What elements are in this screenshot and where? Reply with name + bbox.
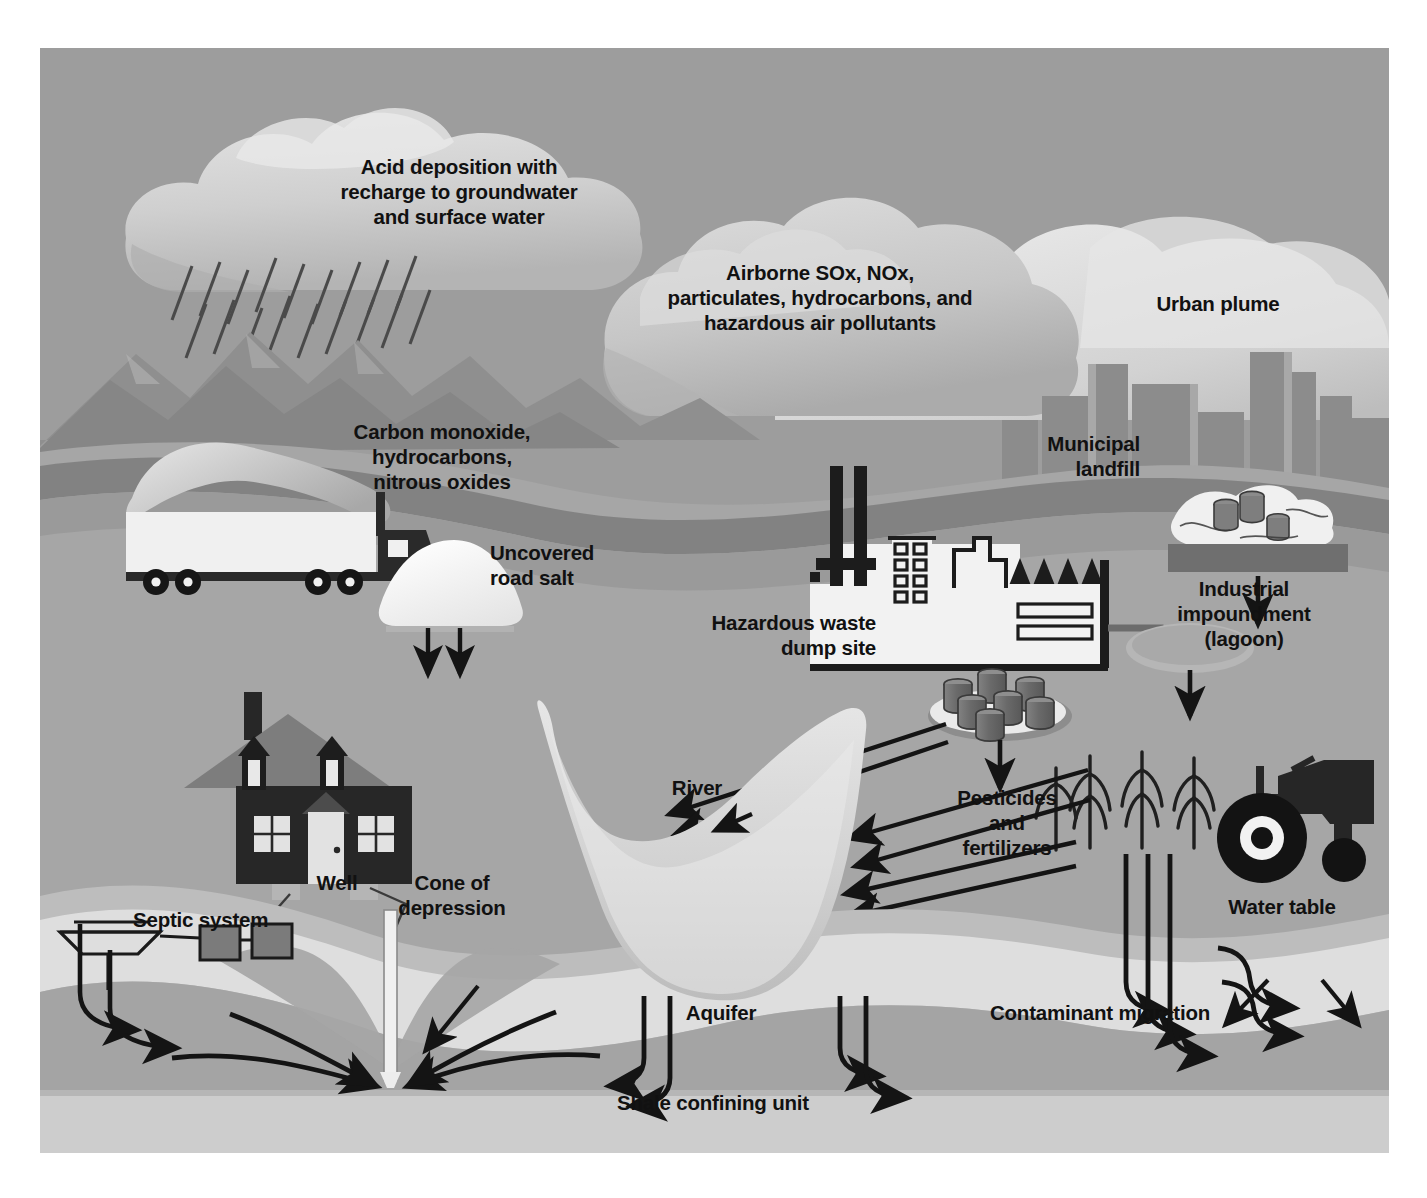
shale-confining-unit bbox=[40, 1090, 1389, 1153]
landfill-base bbox=[1168, 544, 1348, 572]
figure-page: Acid deposition with recharge to groundw… bbox=[0, 0, 1427, 1198]
front-wheel bbox=[1322, 838, 1366, 882]
exhaust-stack bbox=[376, 492, 385, 536]
truck-trailer bbox=[126, 512, 376, 578]
chimney bbox=[244, 692, 262, 740]
diagram-canvas: Acid deposition with recharge to groundw… bbox=[40, 48, 1389, 1153]
drum bbox=[976, 709, 1004, 741]
truck-window bbox=[388, 540, 408, 557]
drum bbox=[1026, 697, 1054, 729]
